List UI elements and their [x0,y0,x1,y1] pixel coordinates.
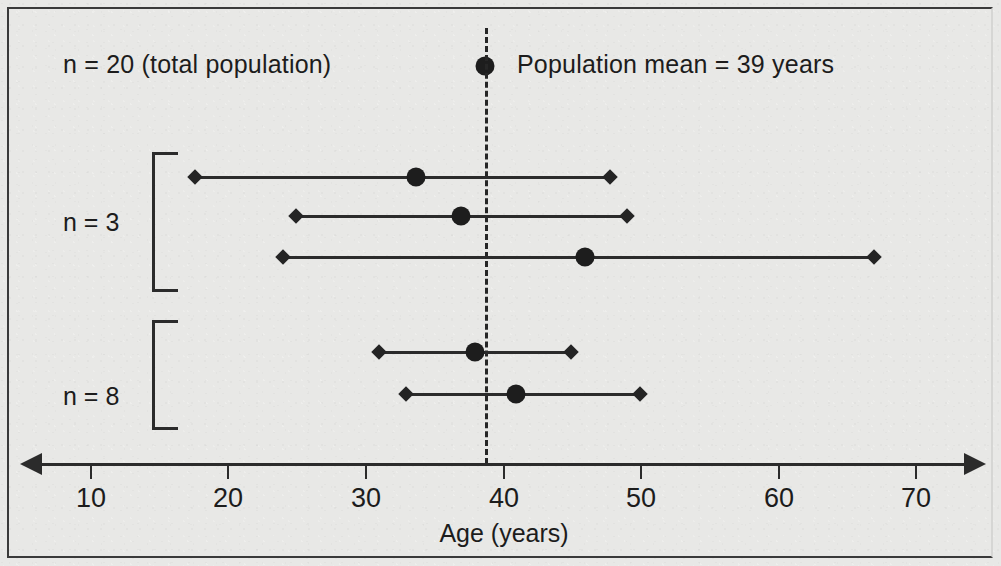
range-min-marker-row-1 [187,169,203,185]
range-min-marker-row-3 [275,249,291,265]
range-max-marker-row-4 [563,344,579,360]
x-tick-70 [915,466,917,479]
x-tick-20 [227,466,229,479]
x-tick-50 [640,466,642,479]
group-label-n8: n = 8 [63,382,119,411]
range-max-marker-row-5 [632,386,648,402]
legend-total-population-label: n = 20 (total population) [63,50,331,79]
group-bracket-n8 [152,320,178,430]
x-axis-right-arrow-icon [964,453,986,475]
mean-dot-row-5 [507,385,526,404]
x-axis-title: Age (years) [439,519,568,548]
group-label-n3: n = 3 [63,208,119,237]
x-tick-40 [503,466,505,479]
x-tick-60 [778,466,780,479]
mean-dot-row-2 [452,207,471,226]
x-tick-label-30: 30 [351,483,381,514]
range-line-row-1 [195,176,610,179]
range-min-marker-row-4 [371,344,387,360]
mean-dot-row-4 [466,343,485,362]
mean-dot-row-3 [576,248,595,267]
range-max-marker-row-3 [866,249,882,265]
x-tick-label-40: 40 [489,483,519,514]
range-max-marker-row-2 [619,208,635,224]
group-bracket-n3 [152,152,178,292]
range-max-marker-row-1 [602,169,618,185]
x-tick-label-10: 10 [76,483,106,514]
x-tick-30 [365,466,367,479]
mean-dot-row-1 [407,168,426,187]
legend-population-mean-label: Population mean = 39 years [517,50,834,79]
x-tick-label-20: 20 [213,483,243,514]
plot-area: n = 20 (total population) Population mea… [0,0,1001,566]
x-tick-label-50: 50 [626,483,656,514]
x-tick-label-70: 70 [901,483,931,514]
x-axis-left-arrow-icon [20,453,42,475]
chart-figure: n = 20 (total population) Population mea… [0,0,1001,566]
population-mean-line [485,28,488,464]
range-min-marker-row-5 [398,386,414,402]
x-tick-10 [90,466,92,479]
x-tick-label-60: 60 [764,483,794,514]
range-min-marker-row-2 [288,208,304,224]
